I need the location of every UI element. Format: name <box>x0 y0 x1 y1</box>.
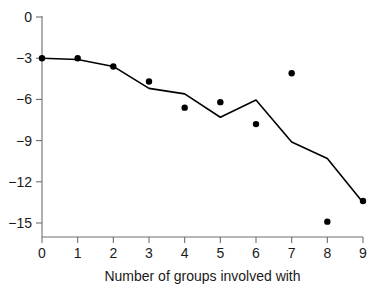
y-axis: 0−3−6−9−12−15 <box>8 9 42 237</box>
scatter-point <box>324 218 330 224</box>
fitted-line-path <box>42 58 363 202</box>
x-tick-label: 4 <box>181 245 189 261</box>
scatter-point <box>39 55 45 61</box>
scatter-point <box>110 63 116 69</box>
y-tick-label: −3 <box>16 50 32 66</box>
scatter-point-series <box>39 55 366 225</box>
scatter-point <box>74 55 80 61</box>
y-tick-label: −9 <box>16 133 32 149</box>
scatter-point <box>360 198 366 204</box>
scatter-point <box>146 78 152 84</box>
scatter-point <box>181 104 187 110</box>
x-tick-label: 9 <box>359 245 367 261</box>
y-tick-label: 0 <box>24 9 32 25</box>
y-tick-label: −6 <box>16 91 32 107</box>
y-tick-label: −15 <box>8 215 32 231</box>
scatter-point <box>253 121 259 127</box>
x-tick-label: 5 <box>216 245 224 261</box>
x-tick-label: 8 <box>323 245 331 261</box>
chart-container: 0−3−6−9−12−15 0123456789 Number of group… <box>0 0 371 285</box>
x-tick-label: 1 <box>74 245 82 261</box>
x-tick-label: 2 <box>109 245 117 261</box>
chart-plot: 0−3−6−9−12−15 0123456789 Number of group… <box>0 0 371 285</box>
x-tick-label: 3 <box>145 245 153 261</box>
x-axis: 0123456789 <box>38 237 367 261</box>
y-tick-label: −12 <box>8 174 32 190</box>
scatter-point <box>288 70 294 76</box>
x-axis-title: Number of groups involved with <box>104 268 300 284</box>
x-tick-label: 0 <box>38 245 46 261</box>
fitted-line-series <box>42 58 363 202</box>
scatter-point <box>217 99 223 105</box>
x-tick-label: 6 <box>252 245 260 261</box>
x-tick-label: 7 <box>288 245 296 261</box>
